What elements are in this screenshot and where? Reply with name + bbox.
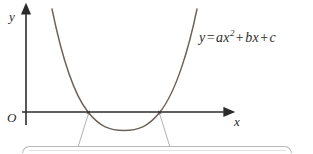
equation-equals: = [206,30,216,45]
quadratic-figure: y x O y=ax2+bx+c [0,0,313,153]
equation-term-a: ax [216,30,230,45]
equation-term-c: c [269,30,276,45]
equation-label: y=ax2+bx+c [199,29,276,45]
x-axis-label: x [234,115,240,128]
equation-plus-2: + [259,30,269,45]
callout-box [23,147,292,154]
equation-plus-1: + [235,30,245,45]
equation-lhs: y [199,30,206,45]
equation-term-b: bx [245,30,259,45]
origin-label: O [7,111,16,124]
arrow-to-right-root [160,114,171,148]
y-axis-label: y [9,10,15,23]
figure-canvas [0,0,313,153]
arrow-to-left-root [78,114,89,148]
